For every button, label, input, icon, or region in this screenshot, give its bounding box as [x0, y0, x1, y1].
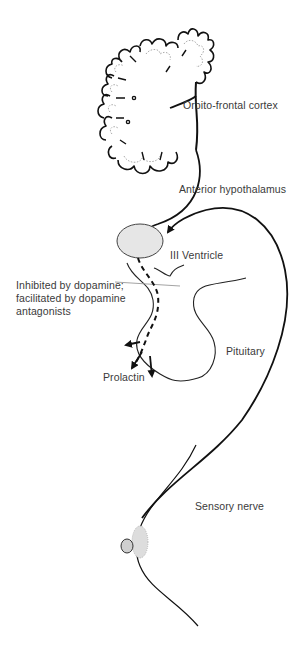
label-anterior-hypothalamus: Anterior hypothalamus: [179, 183, 286, 195]
hypothalamus-nucleus: [117, 224, 163, 258]
label-sensory-nerve: Sensory nerve: [195, 500, 264, 512]
label-pituitary: Pituitary: [226, 345, 265, 357]
nipple-areola: [121, 526, 148, 558]
diagram-canvas: Orbito-frontal cortex Anterior hypothala…: [0, 0, 299, 649]
label-inhibition-line-2: facilitated by dopamine: [16, 292, 126, 304]
tuberoinfundibular-dashed-tract: [136, 258, 158, 362]
label-inhibition-line-3: antagonists: [16, 305, 71, 317]
diagram-artwork: [0, 0, 299, 649]
label-inhibition-line-1: Inhibited by dopamine;: [16, 279, 124, 291]
label-iii-ventricle: III Ventricle: [170, 249, 223, 261]
label-prolactin: Prolactin: [103, 371, 145, 383]
label-orbito-frontal-cortex: Orbito-frontal cortex: [183, 99, 278, 111]
